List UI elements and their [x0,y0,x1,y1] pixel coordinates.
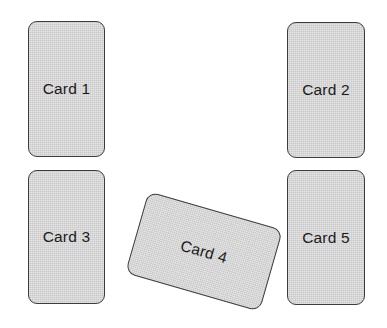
card-1-label: Card 1 [43,80,91,98]
card-4-label: Card 4 [179,236,230,266]
card-4[interactable]: Card 4 [125,191,283,311]
card-1[interactable]: Card 1 [28,21,105,157]
card-2[interactable]: Card 2 [287,22,365,158]
card-2-label: Card 2 [302,81,350,99]
card-5-label: Card 5 [302,229,350,247]
card-3[interactable]: Card 3 [28,170,105,304]
card-5[interactable]: Card 5 [287,170,365,305]
card-layout-canvas: Card 1 Card 2 Card 3 Card 4 Card 5 [0,0,387,328]
card-3-label: Card 3 [43,228,91,246]
